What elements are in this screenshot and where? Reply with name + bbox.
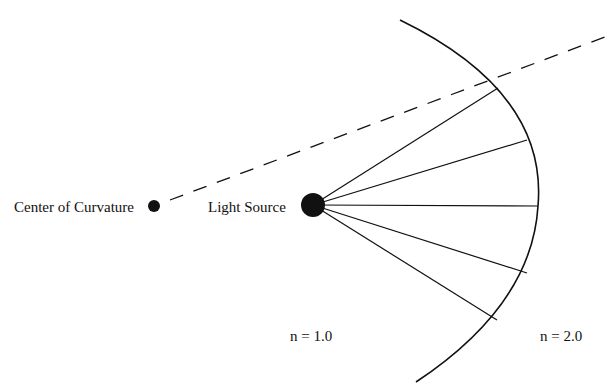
ray-1 [313,88,498,205]
center-of-curvature-dot [148,200,160,212]
light-source-label: Light Source [208,199,286,215]
ray-2 [313,140,527,205]
refraction-diagram: Center of Curvature Light Source n = 1.0… [0,0,610,390]
ray-4 [313,205,527,273]
refractive-index-outer-label: n = 2.0 [540,328,582,344]
refractive-index-inner-label: n = 1.0 [290,328,332,344]
center-of-curvature-label: Center of Curvature [14,199,134,215]
interface-arc [400,20,539,382]
light-rays [313,88,538,320]
ray-5 [313,205,497,320]
dashed-normal-line [170,37,605,200]
ray-3 [313,205,538,206]
light-source-dot [301,193,325,217]
